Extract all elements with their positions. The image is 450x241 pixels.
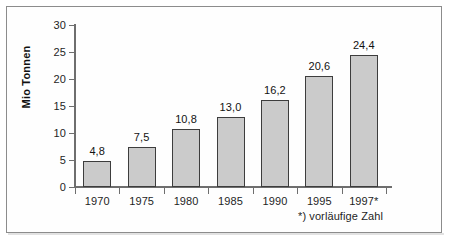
x-axis-category-label: 1990 bbox=[262, 195, 287, 207]
bar-group[interactable]: 7,5 bbox=[128, 25, 156, 187]
x-axis-tick bbox=[75, 188, 76, 194]
y-axis-tick-label: 25 bbox=[54, 46, 66, 58]
frame-shadow bbox=[8, 233, 444, 235]
bar[interactable] bbox=[305, 76, 333, 187]
bar[interactable] bbox=[217, 117, 245, 187]
y-axis-tick-label: 20 bbox=[54, 73, 66, 85]
y-axis-title: Mio Tonnen bbox=[19, 27, 33, 127]
x-axis-category-label: 1985 bbox=[218, 195, 243, 207]
plot-area: 0510152025304,87,510,813,016,220,624,4 bbox=[75, 25, 386, 187]
bar-value-label: 16,2 bbox=[264, 84, 286, 96]
y-axis-tick-label: 10 bbox=[54, 127, 66, 139]
x-axis-tick bbox=[253, 188, 254, 194]
y-axis-tick bbox=[69, 52, 75, 53]
y-axis-tick bbox=[69, 133, 75, 134]
bar-value-label: 20,6 bbox=[308, 60, 330, 72]
bar-value-label: 13,0 bbox=[220, 101, 242, 113]
bar-group[interactable]: 24,4 bbox=[350, 25, 378, 187]
y-axis-tick-label: 5 bbox=[60, 154, 66, 166]
chart-frame: Mio Tonnen 0510152025304,87,510,813,016,… bbox=[6, 6, 442, 233]
bar-group[interactable]: 16,2 bbox=[261, 25, 289, 187]
bar-value-label: 10,8 bbox=[175, 113, 197, 125]
x-axis-category-label: 1970 bbox=[85, 195, 110, 207]
bar-group[interactable]: 4,8 bbox=[83, 25, 111, 187]
x-axis-tick bbox=[297, 188, 298, 194]
y-axis-tick bbox=[69, 79, 75, 80]
bar[interactable] bbox=[83, 161, 111, 187]
y-axis-tick-label: 0 bbox=[60, 181, 66, 193]
x-axis-category-label: 1997* bbox=[349, 195, 378, 207]
x-axis-tick bbox=[342, 188, 343, 194]
x-axis-category-label: 1980 bbox=[174, 195, 199, 207]
y-axis-tick bbox=[69, 106, 75, 107]
bar-value-label: 7,5 bbox=[134, 131, 150, 143]
x-axis-tick bbox=[164, 188, 165, 194]
chart-screenshot: Mio Tonnen 0510152025304,87,510,813,016,… bbox=[0, 0, 450, 241]
footnote: *) vorläufige Zahl bbox=[298, 210, 383, 222]
bar-value-label: 4,8 bbox=[89, 145, 105, 157]
y-axis-tick-label: 30 bbox=[54, 19, 66, 31]
x-axis-category-label: 1975 bbox=[129, 195, 154, 207]
y-axis-tick bbox=[69, 25, 75, 26]
bar-group[interactable]: 13,0 bbox=[217, 25, 245, 187]
x-axis-tick bbox=[386, 188, 387, 194]
bar[interactable] bbox=[128, 147, 156, 188]
y-axis-title-label: Mio Tonnen bbox=[20, 46, 32, 109]
bar[interactable] bbox=[350, 55, 378, 187]
bar-group[interactable]: 10,8 bbox=[172, 25, 200, 187]
x-axis-tick bbox=[119, 188, 120, 194]
bar[interactable] bbox=[261, 100, 289, 187]
bar[interactable] bbox=[172, 129, 200, 187]
x-axis-category-label: 1995 bbox=[307, 195, 332, 207]
y-axis-tick-label: 15 bbox=[54, 100, 66, 112]
bar-value-label: 24,4 bbox=[353, 39, 375, 51]
y-axis-tick bbox=[69, 160, 75, 161]
bar-group[interactable]: 20,6 bbox=[305, 25, 333, 187]
x-axis-tick bbox=[208, 188, 209, 194]
